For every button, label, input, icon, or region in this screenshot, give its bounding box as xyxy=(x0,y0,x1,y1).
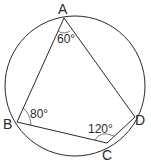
point-label-d: D xyxy=(135,112,145,128)
point-label-c: C xyxy=(102,147,112,163)
angle-label-b: 80° xyxy=(30,107,48,121)
cyclic-quadrilateral-diagram: A B C D 60° 80° 120° xyxy=(0,0,151,167)
angle-label-c: 120° xyxy=(88,122,113,136)
angle-label-a: 60° xyxy=(57,32,75,46)
point-label-b: B xyxy=(3,116,12,132)
point-label-a: A xyxy=(58,1,68,17)
quadrilateral-abcd xyxy=(17,18,135,143)
